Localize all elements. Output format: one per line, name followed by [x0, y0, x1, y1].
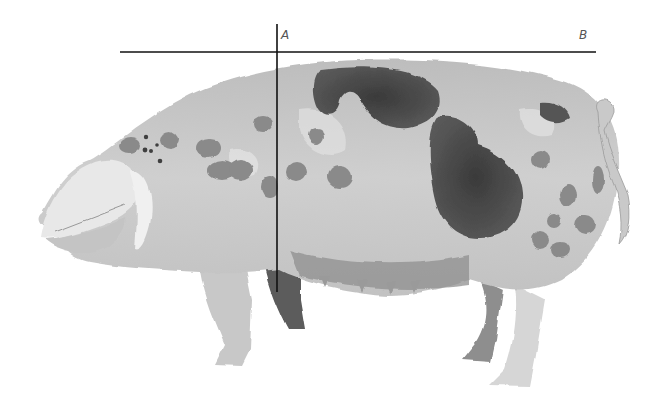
- point-label-b: B: [579, 29, 587, 41]
- pig-illustration: [0, 0, 660, 408]
- point-label-a: A: [281, 29, 289, 41]
